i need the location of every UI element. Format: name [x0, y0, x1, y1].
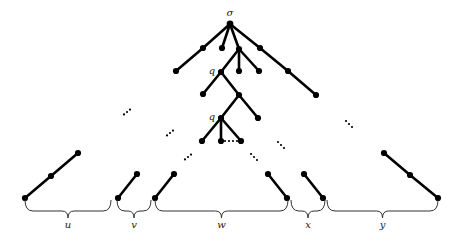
tree-node	[199, 138, 205, 144]
tree-node	[238, 138, 244, 144]
brace-label-y: y	[379, 219, 386, 230]
tree-node	[284, 195, 290, 201]
tree-node	[256, 68, 262, 74]
brace-x	[291, 200, 325, 218]
tree-edge	[304, 174, 323, 198]
tree-node	[200, 45, 206, 51]
tree-node	[313, 92, 319, 98]
tree-node	[257, 45, 263, 51]
brace-w	[155, 200, 288, 218]
ellipsis-dot	[184, 158, 186, 160]
tree-edge	[221, 118, 241, 141]
tree-node	[218, 138, 224, 144]
ellipsis-dot	[236, 140, 238, 142]
q-label-lower: q	[209, 111, 215, 122]
tree-node	[227, 21, 234, 28]
bottom-braces: uvwxy	[25, 200, 438, 230]
ellipsis-dot	[256, 159, 258, 161]
tree-diagram: uvwxy σ q q	[0, 0, 466, 243]
tree-edge	[25, 176, 51, 198]
tree-edge	[384, 153, 410, 175]
tree-edges	[25, 24, 438, 198]
tree-edge	[239, 95, 258, 118]
brace-label-w: w	[217, 219, 226, 230]
tree-node	[219, 45, 225, 51]
brace-u	[25, 200, 111, 218]
ellipsis-dot	[166, 134, 168, 136]
tree-nodes	[22, 21, 441, 201]
brace-label-v: v	[131, 219, 137, 230]
ellipsis-dot	[348, 123, 350, 125]
tree-node	[236, 46, 242, 52]
tree-edge	[155, 174, 174, 198]
tree-edge	[288, 71, 316, 95]
ellipsis-dot	[129, 109, 131, 111]
ellipsis-dot	[126, 111, 128, 113]
ellipsis-dot	[351, 126, 353, 128]
ellipsis-dot	[280, 144, 282, 146]
ellipsis-dot	[169, 132, 171, 134]
ellipsis-dot	[228, 140, 230, 142]
tree-edge	[221, 49, 239, 72]
tree-node	[115, 195, 121, 201]
root-label: σ	[227, 7, 235, 18]
q-label-upper: q	[209, 65, 215, 76]
tree-edge	[176, 48, 203, 71]
tree-edge	[221, 72, 239, 95]
brace-label-x: x	[305, 219, 311, 230]
ellipsis-dot	[224, 140, 226, 142]
tree-node	[236, 68, 242, 74]
ellipsis-dot	[253, 156, 255, 158]
tree-edge	[118, 174, 137, 198]
ellipsis-dot	[345, 120, 347, 122]
tree-node	[134, 171, 140, 177]
ellipsis-dot	[277, 141, 279, 143]
tree-node	[407, 172, 413, 178]
tree-node	[265, 171, 271, 177]
tree-node	[218, 115, 224, 121]
tree-edge	[410, 175, 438, 198]
tree-node	[200, 91, 206, 97]
ellipsis-dot	[172, 130, 174, 132]
tree-node	[75, 150, 81, 156]
tree-node	[285, 68, 291, 74]
ellipsis-dot	[187, 156, 189, 158]
tree-edge	[51, 153, 78, 176]
ellipsis-dot	[190, 154, 192, 156]
brace-v	[117, 200, 151, 218]
ellipsis-dot	[250, 153, 252, 155]
tree-node	[255, 115, 261, 121]
ellipsis-dot	[232, 140, 234, 142]
tree-node	[171, 171, 177, 177]
ellipsis-dot	[283, 147, 285, 149]
tree-edge	[239, 49, 259, 71]
ellipsis-dots	[123, 109, 353, 162]
tree-node	[173, 68, 179, 74]
tree-node	[48, 173, 54, 179]
tree-edge	[221, 95, 239, 118]
tree-node	[301, 171, 307, 177]
tree-edge	[260, 48, 288, 71]
ellipsis-dot	[123, 113, 125, 115]
brace-label-u: u	[65, 219, 71, 230]
brace-y	[327, 200, 438, 218]
tree-node	[381, 150, 387, 156]
tree-edge	[268, 174, 287, 198]
tree-node	[236, 92, 242, 98]
tree-node	[218, 69, 224, 75]
